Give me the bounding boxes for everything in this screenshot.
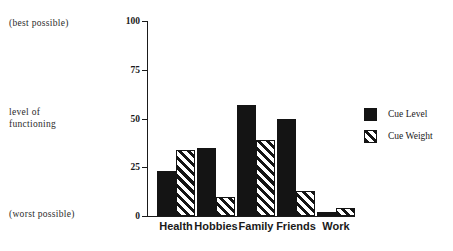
bar-family-cue-weight: [256, 140, 275, 216]
y-axis-tick: [142, 216, 147, 217]
y-axis-tick: [142, 21, 147, 22]
x-axis-label-friends: Friends: [276, 220, 316, 232]
bar-group: [197, 21, 235, 216]
y-axis-tick: [142, 70, 147, 71]
bar-hobbies-cue-level: [197, 148, 216, 216]
y-axis-tick: [142, 119, 147, 120]
y-axis-title-line-1: level of: [9, 107, 40, 117]
y-axis-tick-label: 0: [135, 211, 140, 221]
best-possible-label: (best possible): [9, 17, 69, 29]
x-axis-label-family: Family: [239, 220, 274, 232]
x-axis-label-work: Work: [322, 220, 349, 232]
bar-health-cue-weight: [176, 150, 195, 216]
legend-label: Cue Weight: [388, 131, 433, 141]
y-axis-title-line-2: functioning: [9, 118, 56, 130]
y-axis-tick-label: 75: [131, 65, 141, 75]
worst-possible-label: (worst possible): [9, 208, 75, 220]
x-axis-label-hobbies: Hobbies: [194, 220, 237, 232]
bar-group: [157, 21, 195, 216]
y-axis-tick-label: 50: [131, 114, 141, 124]
plot-area: 0255075100 HealthHobbiesFamilyFriendsWor…: [147, 21, 355, 216]
bar-chart: (best possible) level of functioning (wo…: [0, 0, 453, 251]
legend-swatch-icon: [364, 130, 377, 143]
bar-group: [277, 21, 315, 216]
bar-friends-cue-level: [277, 119, 296, 217]
legend-item-cue-level[interactable]: Cue Level: [364, 103, 452, 125]
y-axis-title: level of functioning: [9, 106, 56, 130]
bar-family-cue-level: [237, 105, 256, 216]
x-axis-line: [147, 216, 355, 217]
bar-work-cue-level: [317, 212, 336, 216]
x-axis-label-health: Health: [159, 220, 193, 232]
legend-label: Cue Level: [388, 109, 427, 119]
y-axis-line: [147, 21, 148, 216]
legend-swatch-icon: [364, 108, 377, 121]
bar-work-cue-weight: [336, 208, 355, 216]
legend-item-cue-weight[interactable]: Cue Weight: [364, 125, 452, 147]
bar-hobbies-cue-weight: [216, 197, 235, 217]
y-axis-tick: [142, 167, 147, 168]
y-axis-tick-label: 25: [131, 162, 141, 172]
chart-legend: Cue LevelCue Weight: [364, 103, 452, 147]
y-axis-tick-label: 100: [126, 16, 140, 26]
bar-group: [237, 21, 275, 216]
bar-friends-cue-weight: [296, 191, 315, 216]
bar-group: [317, 21, 355, 216]
bar-health-cue-level: [157, 171, 176, 216]
